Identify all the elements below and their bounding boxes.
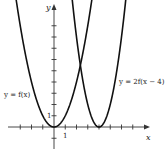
series-label-2f: y = 2f(x − 4) <box>118 78 165 86</box>
x-tick-label-1: 1 <box>63 132 67 140</box>
y-axis-arrow <box>52 4 57 10</box>
series-label-f: y = f(x) <box>3 91 31 99</box>
curves <box>16 0 126 127</box>
chart: x y 1 1 y = f(x) y = 2f(x − 4) <box>0 0 166 152</box>
curve-y-equals-2f-x-minus-4 <box>72 0 126 127</box>
y-tick-label-1: 1 <box>47 112 51 120</box>
labels: x y 1 1 y = f(x) y = 2f(x − 4) <box>3 3 165 142</box>
y-axis-label: y <box>45 3 51 12</box>
x-axis-label: x <box>146 133 151 142</box>
axes <box>8 4 150 149</box>
x-axis-arrow <box>144 125 150 130</box>
